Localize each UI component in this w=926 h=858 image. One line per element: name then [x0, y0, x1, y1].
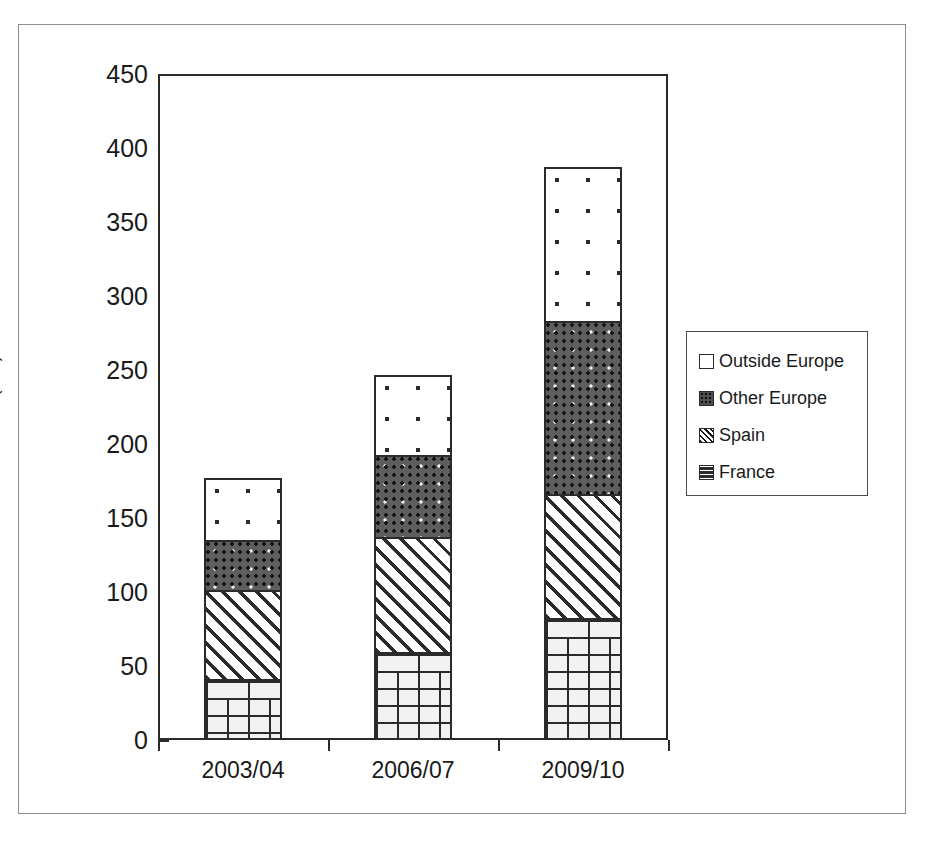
chart-legend: Outside Europe Other Europe Spain France	[686, 331, 868, 496]
bar-segment-spain	[544, 494, 622, 620]
legend-item-other-europe[interactable]: Other Europe	[699, 380, 867, 417]
legend-item-spain[interactable]: Spain	[699, 417, 867, 454]
bar-group	[374, 74, 452, 740]
legend-label-france: France	[719, 462, 775, 483]
y-axis-tick-label: 0	[86, 728, 148, 753]
legend-swatch-france-icon	[699, 465, 714, 480]
x-axis-tick-mark	[668, 740, 670, 751]
y-axis-tick-label: 250	[86, 358, 148, 383]
y-axis-tick-labels: 450400350300250200150100500	[86, 74, 148, 740]
bar-segment-france	[204, 679, 282, 740]
y-axis-tick-label: 200	[86, 432, 148, 457]
legend-swatch-spain-icon	[699, 428, 714, 443]
y-axis-tick-label: 450	[86, 62, 148, 87]
stacked-bar-chart: Second homes (000) 450400350300250200150…	[0, 0, 926, 858]
y-axis-tick-label: 300	[86, 284, 148, 309]
bar-segment-france	[544, 618, 622, 740]
legend-label-spain: Spain	[719, 425, 765, 446]
y-axis-tick-label: 50	[86, 654, 148, 679]
legend-label-outside-europe: Outside Europe	[719, 351, 844, 372]
y-axis-tick-label: 350	[86, 210, 148, 235]
legend-swatch-other-europe-icon	[699, 391, 714, 406]
bar-group	[204, 74, 282, 740]
y-axis-title: Second homes (000)	[0, 286, 4, 586]
bar-segment-outside-europe	[204, 478, 282, 542]
y-axis-tick-label: 100	[86, 580, 148, 605]
legend-swatch-outside-europe-icon	[699, 354, 714, 369]
x-axis-tick-mark	[328, 740, 330, 751]
legend-item-outside-europe[interactable]: Outside Europe	[699, 343, 867, 380]
bar-group	[544, 74, 622, 740]
bar-segment-spain	[374, 537, 452, 654]
legend-label-other-europe: Other Europe	[719, 388, 827, 409]
bar-segment-spain	[204, 590, 282, 681]
x-axis-tick-mark	[158, 740, 160, 751]
bar-segment-other-europe	[204, 540, 282, 592]
x-axis-tick-mark	[498, 740, 500, 751]
y-axis-tick-label: 400	[86, 136, 148, 161]
bar-segment-outside-europe	[374, 375, 452, 457]
x-axis-tick-label: 2009/10	[483, 757, 683, 784]
legend-item-france[interactable]: France	[699, 454, 867, 491]
bar-segment-other-europe	[374, 455, 452, 538]
bar-segment-other-europe	[544, 321, 622, 496]
bar-segment-outside-europe	[544, 167, 622, 323]
bar-segment-france	[374, 652, 452, 740]
y-axis-tick-label: 150	[86, 506, 148, 531]
